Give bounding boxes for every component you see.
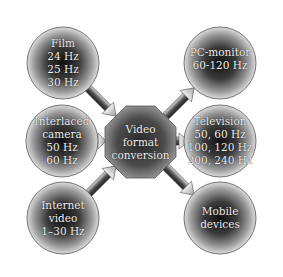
node-pc-monitor: [184, 27, 256, 99]
node-video-format-conversion: [105, 106, 176, 178]
node-film: [27, 27, 99, 99]
diagram-canvas: [0, 0, 283, 277]
node-internet-video: [27, 182, 99, 254]
node-television: [184, 105, 256, 177]
node-mobile-devices: [184, 182, 256, 254]
video-format-conversion-diagram: Film 24 Hz 25 Hz 30 Hz Interlaced camera…: [0, 0, 283, 277]
node-interlaced-camera: [26, 105, 98, 177]
